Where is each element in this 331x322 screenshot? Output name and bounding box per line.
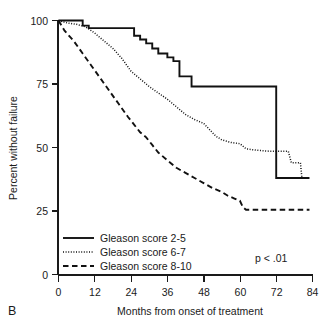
y-axis-tick-labels: 100 75 50 25 0 [30, 15, 48, 281]
y-axis-ticks [52, 21, 58, 275]
x-tick-label-0: 0 [56, 286, 62, 298]
chart-svg: 100 75 50 25 0 0 12 24 36 48 60 72 84 [0, 0, 331, 322]
legend-label-gleason-6-7: Gleason score 6-7 [100, 246, 186, 258]
curve-gleason-6-7 [59, 21, 310, 178]
x-tick-label-36: 36 [162, 286, 174, 298]
x-tick-label-60: 60 [235, 286, 247, 298]
y-tick-label-100: 100 [30, 15, 48, 27]
y-axis-title: Percent without failure [7, 96, 19, 200]
y-tick-label-25: 25 [36, 205, 48, 217]
x-axis-ticks [59, 275, 313, 282]
panel-label: B [8, 304, 16, 318]
curve-gleason-2-5 [59, 21, 310, 178]
x-tick-label-48: 48 [198, 286, 210, 298]
x-axis-title: Months from onset of treatment [117, 305, 263, 317]
curve-gleason-8-10 [59, 21, 310, 210]
x-axis-tick-labels: 0 12 24 36 48 60 72 84 [56, 286, 319, 298]
survival-curve-figure: 100 75 50 25 0 0 12 24 36 48 60 72 84 [0, 0, 331, 322]
y-tick-label-50: 50 [36, 142, 48, 154]
legend: Gleason score 2-5 Gleason score 6-7 Glea… [63, 232, 192, 272]
y-tick-label-0: 0 [42, 269, 48, 281]
legend-label-gleason-2-5: Gleason score 2-5 [100, 232, 186, 244]
curves-group [59, 21, 310, 210]
x-tick-label-84: 84 [307, 286, 319, 298]
p-value-annotation: p < .01 [255, 252, 288, 264]
x-tick-label-12: 12 [89, 286, 101, 298]
x-tick-label-24: 24 [125, 286, 137, 298]
x-tick-label-72: 72 [271, 286, 283, 298]
y-tick-label-75: 75 [36, 78, 48, 90]
legend-label-gleason-8-10: Gleason score 8-10 [100, 260, 192, 272]
